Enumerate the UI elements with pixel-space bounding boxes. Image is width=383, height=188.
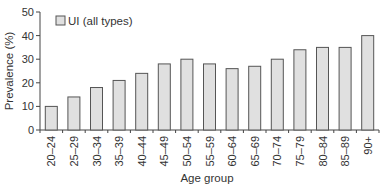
x-tick-label: 45–49 [158,136,170,167]
x-tick-label: 25–29 [68,136,80,167]
bars [45,36,373,130]
x-tick-label: 55–59 [204,136,216,167]
bar [362,36,374,130]
x-tick-label: 80–84 [317,136,329,167]
bar [339,47,351,130]
y-axis: 01020304050 [22,6,40,136]
bar [317,47,329,130]
x-tick-label: 20–24 [45,136,57,167]
x-tick-label: 70–74 [271,136,283,167]
bar [204,64,216,130]
x-axis: 20–2425–2930–3435–3940–4445–4950–5455–59… [40,130,379,167]
x-tick-label: 65–69 [249,136,261,167]
x-tick-label: 30–34 [91,136,103,167]
legend-label: UI (all types) [68,15,133,27]
y-tick-label: 30 [22,53,34,65]
x-tick-label: 90+ [362,136,374,155]
bar [181,59,193,130]
bar-chart: 01020304050 20–2425–2930–3435–3940–4445–… [0,0,383,188]
x-axis-title: Age group [180,172,233,184]
bar [45,106,57,130]
x-tick-label: 60–64 [226,136,238,167]
x-tick-label: 40–44 [136,136,148,167]
legend: UI (all types) [56,15,133,27]
y-axis-title: Prevalence (%) [3,32,15,111]
bar [113,80,125,130]
y-tick-label: 50 [22,6,34,18]
y-tick-label: 10 [22,100,34,112]
bar [68,97,80,130]
x-tick-label: 35–39 [113,136,125,167]
bar [249,66,261,130]
y-tick-label: 0 [28,124,34,136]
bar [91,88,103,130]
bar [226,69,238,130]
x-tick-label: 85–89 [339,136,351,167]
bar [271,59,283,130]
bar [158,64,170,130]
bar [136,73,148,130]
y-tick-label: 40 [22,30,34,42]
x-tick-label: 75–79 [294,136,306,167]
y-tick-label: 20 [22,77,34,89]
legend-swatch [56,16,65,25]
bar [294,50,306,130]
x-tick-label: 50–54 [181,136,193,167]
